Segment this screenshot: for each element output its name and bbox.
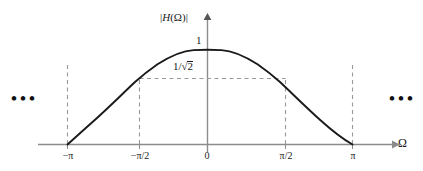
radical-sign-icon: √2 — [182, 60, 194, 72]
x-tick-label-neg-pi: −π — [57, 150, 79, 161]
y-axis-label-post: (Ω)| — [170, 11, 188, 23]
x-tick-label-pi-half: π/2 — [271, 150, 301, 161]
x-axis — [38, 141, 400, 149]
plot-canvas — [0, 0, 423, 171]
radical-overbar — [187, 61, 194, 62]
magnitude-response-curve — [68, 50, 353, 145]
x-tick-label-neg-pi-half: −π/2 — [124, 150, 156, 161]
ellipsis-right: ••• — [389, 90, 416, 107]
ellipsis-left: ••• — [11, 90, 38, 107]
x-tick-label-zero: 0 — [197, 150, 217, 161]
guide-lines — [68, 64, 353, 144]
y-axis-arrow-icon — [204, 13, 212, 20]
one-over-text: 1/ — [173, 60, 182, 72]
magnitude-response-figure: |H(Ω)| Ω 1 1/√2 −π −π/2 0 π/2 π ••• ••• — [0, 0, 423, 171]
x-axis-label: Ω — [398, 137, 407, 149]
y-axis-label: |H(Ω)| — [160, 12, 188, 23]
y-axis-label-italic: H — [162, 11, 170, 23]
y-value-label-one-over-sqrt-two: 1/√2 — [173, 60, 193, 72]
y-value-label-one: 1 — [196, 35, 202, 46]
x-tick-label-pi: π — [343, 150, 363, 161]
y-axis — [204, 13, 212, 152]
